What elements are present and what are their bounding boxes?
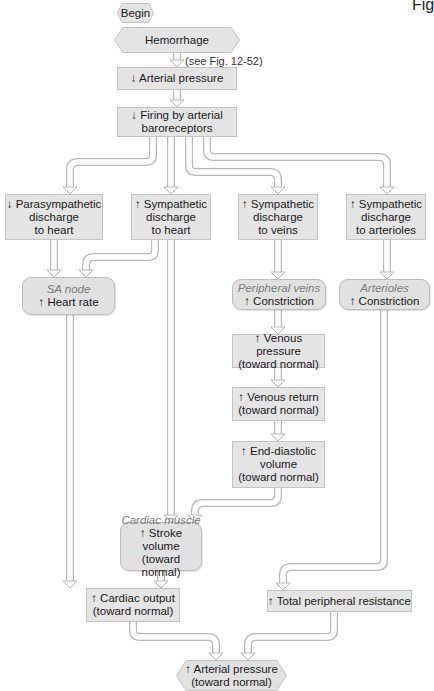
sa-node-node: SA node ↑ Heart rate	[22, 277, 115, 315]
node-label-line: ↑ End-diastolic	[241, 445, 316, 458]
node-label-line: (toward normal)	[93, 605, 174, 618]
begin-label: Begin	[121, 7, 150, 20]
begin-terminal: Begin	[117, 3, 154, 23]
node-label-line: ↑ Arterial pressure	[185, 663, 278, 676]
site-label: Arterioles	[360, 282, 409, 295]
effect-label: ↑ Constriction	[244, 295, 314, 308]
reference-note: (see Fig. 12-52)	[185, 55, 263, 67]
node-label-line: discharge	[29, 211, 79, 224]
node-label-line: to heart	[35, 224, 74, 237]
node-label-line: ↓ Firing by arterial	[131, 109, 222, 122]
node-label-line: to veins	[258, 224, 298, 237]
node-label-line: baroreceptors	[142, 122, 213, 135]
node-label-line: ↑ Venous return	[238, 391, 319, 404]
effect-label-line: (toward normal)	[121, 553, 201, 579]
effect-label: ↑ Heart rate	[38, 296, 98, 309]
sympathetic-arterioles-node: ↑ Sympathetic discharge to arterioles	[346, 194, 426, 240]
baroreceptor-firing-node: ↓ Firing by arterial baroreceptors	[117, 107, 237, 137]
cardiac-muscle-node: Cardiac muscle ↑ Stroke volume (toward n…	[120, 522, 202, 571]
node-label-line: (toward normal)	[191, 676, 272, 689]
node-label-line: ↑ Venous pressure	[233, 332, 324, 358]
node-label: ↑ Total peripheral resistance	[268, 595, 411, 608]
node-label-line: discharge	[146, 211, 196, 224]
effect-label: ↑ Constriction	[350, 295, 420, 308]
node-label-line: (toward normal)	[238, 471, 319, 484]
site-label: Peripheral veins	[238, 282, 320, 295]
node-label: ↑ Arterial pressure (toward normal)	[185, 663, 278, 689]
arterial-pressure-increase-node: ↑ Arterial pressure (toward normal)	[176, 660, 287, 691]
node-label-line: ↑ Cardiac output	[91, 592, 175, 605]
node-label-line: to arterioles	[356, 224, 416, 237]
parasympathetic-heart-node: ↓ Parasympathetic discharge to heart	[5, 194, 103, 240]
node-label-line: ↓ Parasympathetic	[7, 198, 102, 211]
node-label-line: ↑ Sympathetic	[135, 198, 207, 211]
total-peripheral-resistance-node: ↑ Total peripheral resistance	[267, 590, 412, 612]
node-label-line: ↑ Sympathetic	[242, 198, 314, 211]
sympathetic-heart-node: ↑ Sympathetic discharge to heart	[131, 194, 211, 240]
arterioles-node: Arterioles ↑ Constriction	[339, 279, 430, 310]
arterial-pressure-decrease-node: ↓ Arterial pressure	[117, 67, 237, 90]
venous-return-node: ↑ Venous return (toward normal)	[232, 387, 325, 421]
hemorrhage-label: Hemorrhage	[145, 34, 209, 47]
site-label: Cardiac muscle	[121, 514, 200, 527]
node-label-line: discharge	[361, 211, 411, 224]
node-label-line: (toward normal)	[238, 404, 319, 417]
node-label-line: to heart	[152, 224, 191, 237]
node-label-line: discharge	[253, 211, 303, 224]
venous-pressure-node: ↑ Venous pressure (toward normal)	[232, 334, 325, 368]
hemorrhage-node: Hemorrhage	[114, 27, 240, 53]
node-label-line: ↑ Sympathetic	[350, 198, 422, 211]
node-label-line: volume	[260, 458, 297, 471]
node-label: ↓ Arterial pressure	[131, 72, 224, 85]
node-label-line: (toward normal)	[238, 358, 319, 371]
peripheral-veins-node: Peripheral veins ↑ Constriction	[232, 279, 326, 310]
figure-corner-label: Fig	[412, 0, 434, 14]
sympathetic-veins-node: ↑ Sympathetic discharge to veins	[238, 194, 318, 240]
effect-label-line: ↑ Stroke volume	[121, 527, 201, 553]
cardiac-output-node: ↑ Cardiac output (toward normal)	[86, 588, 180, 622]
end-diastolic-volume-node: ↑ End-diastolic volume (toward normal)	[232, 441, 325, 488]
site-label: SA node	[47, 283, 91, 296]
